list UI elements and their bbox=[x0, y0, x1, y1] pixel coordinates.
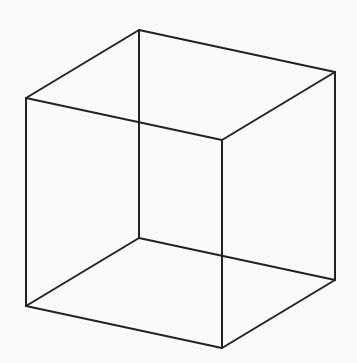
necker-cube-figure bbox=[0, 0, 357, 363]
cube-edge-AB bbox=[26, 30, 139, 98]
cube-edge-BD bbox=[26, 98, 222, 140]
cube-edge-GH bbox=[222, 280, 335, 348]
cube-edge-EG bbox=[139, 238, 335, 280]
cube-edge-AC bbox=[139, 30, 335, 72]
cube-edges bbox=[26, 30, 335, 348]
cube-edge-CD bbox=[222, 72, 335, 140]
cube-edge-FH bbox=[26, 306, 222, 348]
cube-edge-EF bbox=[26, 238, 139, 306]
